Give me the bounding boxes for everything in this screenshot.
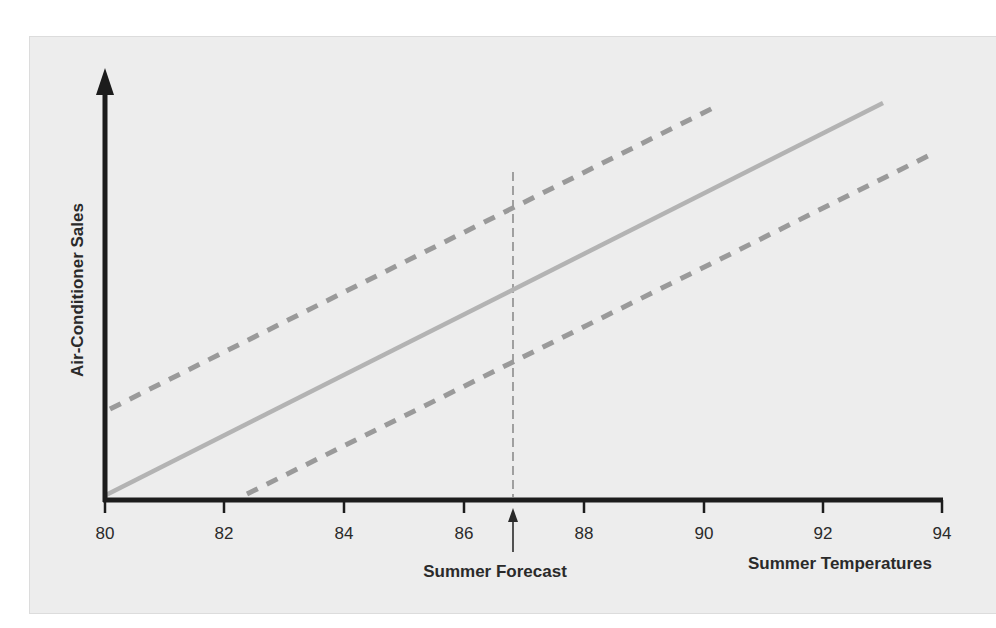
- x-tick-label: 84: [335, 524, 354, 543]
- forecast-arrow-icon: [508, 508, 518, 522]
- y-axis-arrow-icon: [96, 68, 114, 95]
- x-tick-label: 86: [455, 524, 474, 543]
- x-tick-labels: 80 82 84 86 88 90 92 94: [96, 524, 952, 543]
- x-tick-label: 88: [575, 524, 594, 543]
- lower-bound-line: [247, 152, 936, 494]
- x-axis-title: Summer Temperatures: [748, 554, 932, 573]
- upper-bound-line: [110, 108, 713, 409]
- x-tick-label: 94: [933, 524, 952, 543]
- x-tick-label: 92: [814, 524, 833, 543]
- chart-svg: 80 82 84 86 88 90 92 94 Summer Forecast …: [0, 0, 996, 628]
- y-axis-title: Air-Conditioner Sales: [68, 203, 87, 377]
- x-tick-label: 82: [215, 524, 234, 543]
- x-tick-label: 80: [96, 524, 115, 543]
- forecast-label: Summer Forecast: [423, 562, 567, 581]
- x-tick-label: 90: [695, 524, 714, 543]
- forecast-regression-line: [106, 103, 883, 495]
